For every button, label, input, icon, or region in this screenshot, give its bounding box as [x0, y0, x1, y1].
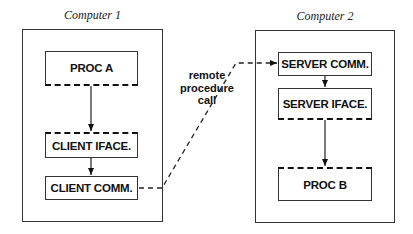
connector-lines: [0, 0, 413, 234]
rpc-dashed-path: [139, 63, 277, 188]
